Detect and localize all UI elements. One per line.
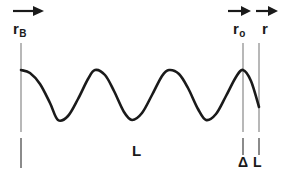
- label-rB-symbol: r: [13, 20, 19, 37]
- label-r0-symbol: r: [233, 20, 239, 37]
- label-r-sub-b: rB: [13, 21, 26, 36]
- label-span-L: L: [132, 143, 141, 158]
- label-r0-subscript: o: [239, 28, 245, 39]
- label-span-delta-L: Δ L: [238, 155, 262, 169]
- label-r: r: [262, 21, 268, 36]
- label-r-sub-o: ro: [233, 21, 245, 36]
- label-r-symbol: r: [262, 20, 268, 37]
- figure-container: rB ro r L Δ L: [0, 0, 282, 179]
- label-rB-subscript: B: [19, 28, 26, 39]
